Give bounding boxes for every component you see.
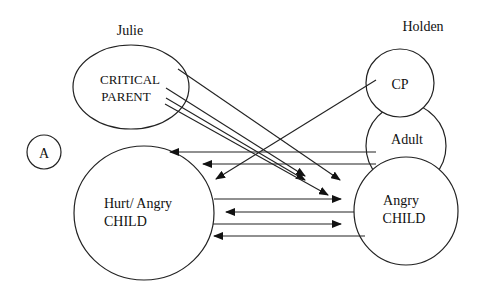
julie-cp-label-line2: PARENT — [101, 89, 150, 104]
marker-a-label: A — [39, 146, 50, 161]
holden-child-label-line2: CHILD — [383, 211, 426, 226]
ta-diagram: Julie CRITICAL PARENT A Hurt/ Angry CHIL… — [0, 0, 482, 291]
arrow-julie-cp-to-holden-child-3 — [166, 98, 305, 180]
julie-child-label-line2: CHILD — [104, 214, 147, 229]
julie-child-ellipse — [74, 146, 214, 280]
holden-adult-label: Adult — [391, 132, 423, 147]
holden-cp-label: CP — [391, 77, 408, 92]
holden-label: Holden — [402, 19, 443, 34]
transaction-arrows — [165, 69, 376, 236]
holden-child-label-line1: Angry — [383, 193, 419, 208]
julie-critical-parent-ellipse — [73, 45, 189, 129]
julie-label: Julie — [117, 23, 143, 38]
julie-cp-label-line1: CRITICAL — [100, 72, 160, 87]
julie-child-label-line1: Hurt/ Angry — [104, 196, 172, 211]
arrow-julie-cp-to-holden-child-4 — [165, 104, 328, 195]
arrow-julie-cp-to-holden-child-2 — [166, 88, 305, 176]
